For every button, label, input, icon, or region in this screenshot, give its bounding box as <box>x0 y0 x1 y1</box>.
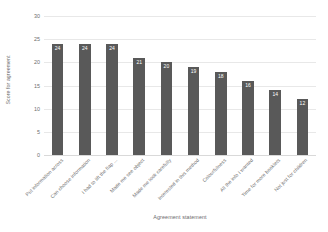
y-axis-tick-label: 0 <box>37 152 40 158</box>
bar[interactable] <box>106 44 117 155</box>
y-axis-title: Score for agreement <box>0 0 16 160</box>
bar-value-label: 21 <box>133 60 144 65</box>
y-axis-tick-label: 15 <box>34 83 40 89</box>
bar-chart-figure: Score for agreement 051015202530 2424242… <box>0 0 328 232</box>
y-axis-tick-label: 30 <box>34 13 40 19</box>
y-axis-tick-label: 10 <box>34 106 40 112</box>
bar[interactable] <box>79 44 90 155</box>
bar-value-label: 24 <box>106 46 117 51</box>
bar-value-label: 12 <box>297 101 308 106</box>
bar[interactable] <box>188 67 199 155</box>
bar-group[interactable]: 18 <box>215 16 226 155</box>
x-axis-tick-label: Colourfulness <box>201 157 227 183</box>
bar-group[interactable]: 20 <box>161 16 172 155</box>
bar-group[interactable]: 24 <box>79 16 90 155</box>
x-axis-title: Agreement statement <box>44 214 316 220</box>
y-axis-title-text: Score for agreement <box>5 55 11 104</box>
bar-group[interactable]: 12 <box>297 16 308 155</box>
bar[interactable] <box>133 58 144 155</box>
y-axis-tick-label: 5 <box>37 129 40 135</box>
x-axis-tick-labels: Put information acrossCan choose informa… <box>44 155 316 213</box>
bar-group[interactable]: 21 <box>133 16 144 155</box>
plot-area: 051015202530 24242421201918161412 <box>44 16 316 155</box>
y-axis-tick-label: 25 <box>34 36 40 42</box>
bar-value-label: 19 <box>188 69 199 74</box>
bar-value-label: 18 <box>215 74 226 79</box>
bar-group[interactable]: 19 <box>188 16 199 155</box>
bar-group[interactable]: 16 <box>242 16 253 155</box>
bar-value-label: 16 <box>242 83 253 88</box>
bar-group[interactable]: 24 <box>106 16 117 155</box>
bars-layer: 24242421201918161412 <box>44 16 316 155</box>
bar[interactable] <box>215 72 226 155</box>
bar[interactable] <box>297 99 308 155</box>
y-axis-tick-label: 20 <box>34 59 40 65</box>
bar-value-label: 20 <box>161 64 172 69</box>
bar[interactable] <box>269 90 280 155</box>
bar[interactable] <box>52 44 63 155</box>
bar[interactable] <box>161 62 172 155</box>
bar-value-label: 24 <box>79 46 90 51</box>
bar-value-label: 14 <box>269 92 280 97</box>
bar-value-label: 24 <box>52 46 63 51</box>
bar-group[interactable]: 24 <box>52 16 63 155</box>
bar[interactable] <box>242 81 253 155</box>
bar-group[interactable]: 14 <box>269 16 280 155</box>
